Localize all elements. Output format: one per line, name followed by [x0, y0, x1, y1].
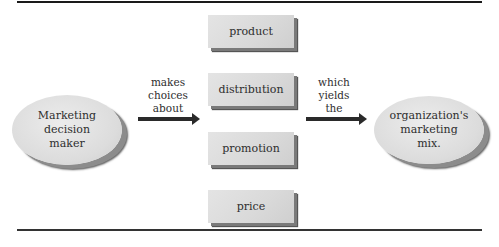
connector-label-line: makes — [140, 76, 196, 89]
node-label-line: marketing — [390, 123, 469, 137]
right-arrow-icon — [138, 117, 193, 121]
node-label-line: organization's — [390, 109, 469, 123]
bottom-rule — [17, 229, 482, 231]
choice-box-price: price — [208, 190, 294, 223]
top-rule — [17, 1, 482, 3]
which-yields-the-label: which yields the — [306, 76, 362, 115]
connector-label-line: which — [306, 76, 362, 89]
connector-label-line: about — [140, 102, 196, 115]
choice-label: product — [229, 25, 273, 38]
node-label-line: decision — [38, 123, 96, 137]
connector-label-line: choices — [140, 89, 196, 102]
node-label-line: Marketing — [38, 109, 96, 123]
choice-box-promotion: promotion — [208, 132, 294, 165]
choice-label: distribution — [218, 83, 283, 96]
connector-label-line: the — [306, 102, 362, 115]
right-arrow-icon — [306, 117, 360, 121]
connector-label-line: yields — [306, 89, 362, 102]
node-label-line: mix. — [390, 137, 469, 151]
marketing-mix-node: organization's marketing mix. — [374, 96, 484, 164]
choice-box-product: product — [208, 15, 294, 48]
choice-box-distribution: distribution — [208, 73, 294, 106]
choice-label: price — [237, 200, 266, 213]
makes-choices-about-label: makes choices about — [140, 76, 196, 115]
choice-label: promotion — [222, 142, 280, 155]
node-label-line: maker — [38, 137, 96, 151]
marketing-decision-maker-node: Marketing decision maker — [12, 95, 122, 165]
